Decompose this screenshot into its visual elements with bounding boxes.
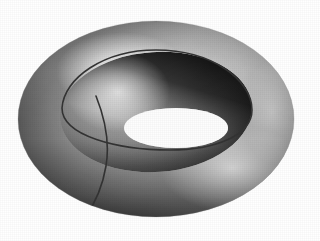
- torus-illustration: Shaded torus Grayscale shaded 3D torus (…: [0, 0, 320, 241]
- figure-canvas: Shaded torus Grayscale shaded 3D torus (…: [0, 0, 320, 241]
- torus-hole: [124, 108, 228, 148]
- torus-body: [0, 0, 320, 241]
